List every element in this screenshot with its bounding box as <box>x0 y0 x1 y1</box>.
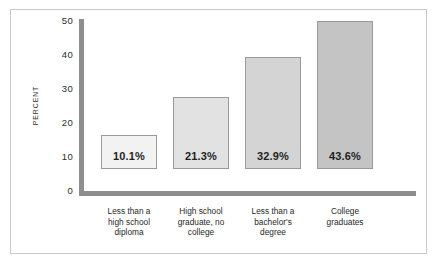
x-category-label-line: Less than a <box>90 206 168 217</box>
x-category-label-line: bachelor's <box>234 217 312 228</box>
x-category-label-line: degree <box>234 227 312 238</box>
x-category-label-line: graduate, no <box>162 217 240 228</box>
x-category-label-line: high school <box>90 217 168 228</box>
x-category-label-line: graduates <box>306 217 384 228</box>
bar-value-label: 10.1% <box>113 150 145 162</box>
x-category-label-line: College <box>306 206 384 217</box>
bar-value-label: 32.9% <box>257 150 289 162</box>
x-category-label: High schoolgraduate, nocollege <box>162 206 240 238</box>
x-category-label: Less than ahigh schooldiploma <box>90 206 168 238</box>
bar: 10.1% <box>101 135 157 169</box>
bar-value-label: 43.6% <box>329 150 361 162</box>
bar: 43.6% <box>317 21 373 169</box>
x-category-label-line: High school <box>162 206 240 217</box>
chart-frame: 01020304050 PERCENT 10.1%Less than ahigh… <box>10 9 427 254</box>
x-category-label-line: college <box>162 227 240 238</box>
bar-value-label: 21.3% <box>185 150 217 162</box>
x-category-label: Collegegraduates <box>306 206 384 227</box>
bar: 21.3% <box>173 97 229 169</box>
x-category-label-line: diploma <box>90 227 168 238</box>
x-category-label-line: Less than a <box>234 206 312 217</box>
x-category-label: Less than abachelor'sdegree <box>234 206 312 238</box>
bar: 32.9% <box>245 57 301 169</box>
bar-series: 10.1%Less than ahigh schooldiploma21.3%H… <box>11 10 426 253</box>
bar-chart: 01020304050 PERCENT 10.1%Less than ahigh… <box>11 10 426 253</box>
